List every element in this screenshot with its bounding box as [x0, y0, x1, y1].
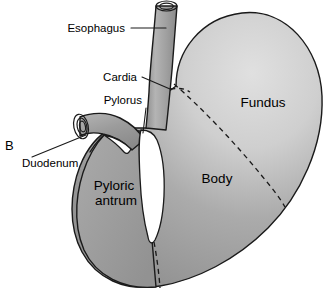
- pyloric-antrum-label: Pyloric antrum: [94, 178, 138, 208]
- fundus-label: Fundus: [240, 95, 285, 110]
- cardia-label: Cardia: [103, 71, 137, 83]
- panel-label-b: B: [5, 138, 14, 153]
- stomach-anatomy-figure: Esophagus Cardia Pylorus Duodenum Fundus…: [0, 0, 325, 292]
- pylorus-label: Pylorus: [104, 94, 143, 106]
- esophagus-label: Esophagus: [67, 22, 125, 34]
- duodenum-label: Duodenum: [22, 157, 78, 169]
- pyloric-antrum-label-line1: Pyloric: [94, 178, 135, 193]
- duodenum-leader-line: [32, 135, 86, 157]
- pyloric-antrum-label-line2: antrum: [95, 193, 137, 208]
- body-label: Body: [202, 171, 233, 186]
- anatomy-illustration: Esophagus Cardia Pylorus Duodenum Fundus…: [0, 0, 325, 292]
